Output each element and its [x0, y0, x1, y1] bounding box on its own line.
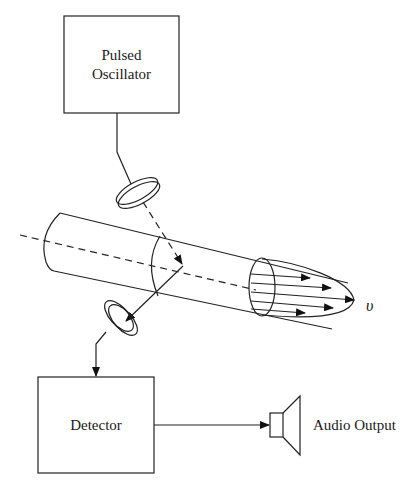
velocity-symbol: υ — [366, 297, 373, 314]
blood-vessel — [44, 213, 348, 329]
speaker-icon — [270, 396, 300, 455]
vessel-axis — [20, 235, 256, 290]
incident-beam — [143, 202, 182, 264]
oscillator-wire — [117, 113, 131, 184]
receive-transducer-icon — [100, 296, 143, 340]
velocity-profile — [249, 258, 354, 317]
oscillator-label-line2: Oscillator — [92, 66, 151, 82]
audio-output-label: Audio Output — [313, 417, 397, 433]
reflected-beam — [126, 266, 183, 321]
detector-label: Detector — [70, 417, 122, 433]
detector-wire — [96, 332, 106, 376]
doppler-diagram: Pulsed Oscillator υ — [0, 0, 417, 493]
oscillator-label-line1: Pulsed — [101, 47, 142, 63]
transmit-transducer-icon — [112, 172, 163, 213]
pulsed-oscillator-block — [64, 16, 179, 113]
